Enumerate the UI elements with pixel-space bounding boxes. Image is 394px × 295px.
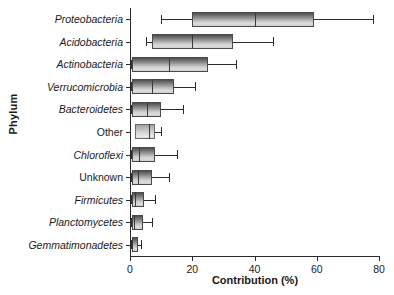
whisker-high-cap xyxy=(152,218,153,227)
box-row: Other xyxy=(130,121,380,144)
y-axis-tick xyxy=(126,177,130,178)
y-axis-tick xyxy=(126,155,130,156)
box-row: Verrucomicrobia xyxy=(130,76,380,99)
median-line xyxy=(135,192,136,207)
whisker-low-cap xyxy=(146,37,147,46)
whisker-high-cap xyxy=(169,173,170,182)
box xyxy=(192,12,313,27)
whisker-high-cap xyxy=(195,82,196,91)
y-axis-tick-label: Verrucomicrobia xyxy=(47,81,123,93)
y-axis-tick-label: Actinobacteria xyxy=(56,58,123,70)
y-axis-tick-label: Chloroflexi xyxy=(73,149,123,161)
y-axis-tick xyxy=(126,109,130,110)
box xyxy=(132,215,144,230)
y-axis-tick xyxy=(126,19,130,20)
y-axis-tick xyxy=(126,245,130,246)
y-axis-tick xyxy=(126,222,130,223)
whisker-high-line xyxy=(152,177,169,178)
whisker-low-cap xyxy=(161,15,162,24)
box-row: Proteobacteria xyxy=(130,8,380,31)
box xyxy=(135,124,155,139)
whisker-high-line xyxy=(161,109,183,110)
box xyxy=(132,192,144,207)
y-axis-tick xyxy=(126,200,130,201)
median-line xyxy=(255,12,256,27)
y-axis-tick-label: Gemmatimonadetes xyxy=(28,239,123,251)
box-row: Acidobacteria xyxy=(130,31,380,54)
x-axis-tick xyxy=(255,256,256,261)
y-axis-tick xyxy=(126,64,130,65)
plot-area: ProteobacteriaAcidobacteriaActinobacteri… xyxy=(130,8,380,256)
y-axis-tick-label: Unknown xyxy=(79,171,123,183)
box xyxy=(132,170,152,185)
box xyxy=(132,147,155,162)
y-axis-tick xyxy=(126,87,130,88)
box-plot-chart: Phylum ProteobacteriaAcidobacteriaActino… xyxy=(0,0,394,295)
x-axis-tick xyxy=(317,256,318,261)
whisker-high-line xyxy=(314,19,373,20)
whisker-high-cap xyxy=(155,195,156,204)
box-row: Chloroflexi xyxy=(130,143,380,166)
y-axis-tick-label: Other xyxy=(97,126,123,138)
x-axis-title: Contribution (%) xyxy=(130,274,380,286)
whisker-high-line xyxy=(233,42,273,43)
median-line xyxy=(192,34,193,49)
whisker-high-line xyxy=(174,87,196,88)
box-row: Planctomycetes xyxy=(130,211,380,234)
median-line xyxy=(169,57,170,72)
whisker-high-cap xyxy=(183,105,184,114)
x-axis-tick xyxy=(192,256,193,261)
median-line xyxy=(139,147,140,162)
box-row: Bacteroidetes xyxy=(130,98,380,121)
whisker-high-cap xyxy=(373,15,374,24)
whisker-high-line xyxy=(208,64,236,65)
y-axis-tick-label: Firmicutes xyxy=(75,194,123,206)
y-axis-tick-label: Acidobacteria xyxy=(59,36,123,48)
box-row: Gemmatimonadetes xyxy=(130,233,380,256)
box-row: Actinobacteria xyxy=(130,53,380,76)
median-line xyxy=(147,102,148,117)
box-row: Unknown xyxy=(130,166,380,189)
whisker-high-cap xyxy=(236,60,237,69)
x-axis-tick xyxy=(130,256,131,261)
y-axis-tick xyxy=(126,42,130,43)
whisker-high-line xyxy=(155,155,177,156)
whisker-high-cap xyxy=(141,240,142,249)
whisker-high-cap xyxy=(273,37,274,46)
median-line xyxy=(149,124,150,139)
median-line xyxy=(134,215,135,230)
y-axis-tick-label: Proteobacteria xyxy=(55,13,123,25)
whisker-high-line xyxy=(143,222,151,223)
whisker-high-line xyxy=(144,200,155,201)
box-row: Firmicutes xyxy=(130,188,380,211)
median-line xyxy=(152,79,153,94)
y-axis-title: Phylum xyxy=(7,79,19,149)
whisker-high-cap xyxy=(177,150,178,159)
y-axis-tick-label: Bacteroidetes xyxy=(59,103,123,115)
y-axis-tick xyxy=(126,132,130,133)
whisker-high-cap xyxy=(161,127,162,136)
x-axis-tick xyxy=(379,256,380,261)
whisker-low-line xyxy=(161,19,192,20)
median-line xyxy=(132,237,133,252)
median-line xyxy=(138,170,139,185)
y-axis-tick-label: Planctomycetes xyxy=(49,216,123,228)
